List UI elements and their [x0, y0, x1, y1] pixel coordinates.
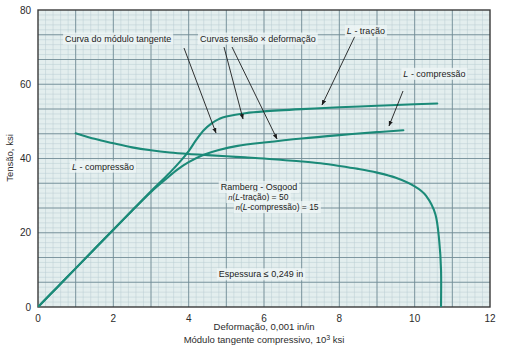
annotation-l-tracao-note: L - tração: [347, 26, 385, 36]
annotation-l-compressao-left-note: L - compressão: [72, 162, 134, 172]
y-axis-title: Tensão, ksi: [4, 134, 15, 182]
chart-svg: 024681012 020406080 Deformação, 0,001 in…: [0, 0, 510, 358]
tangent-modulus-chart-figure: 024681012 020406080 Deformação, 0,001 in…: [0, 0, 510, 358]
x-tick-label: 10: [409, 313, 421, 324]
annotation-stress-strain-note: Curvas tensão × deformação: [200, 34, 316, 44]
x-tick-label: 4: [186, 313, 192, 324]
x-tick-label: 8: [337, 313, 343, 324]
annotation-l-compressao-right-note: L - compressão: [403, 69, 465, 79]
y-tick-label: 80: [20, 5, 32, 16]
y-tick-label: 40: [20, 153, 32, 164]
annotation-ramberg-n-compressao: n(L-compressão) = 15: [236, 202, 319, 212]
x-tick-label: 2: [111, 313, 117, 324]
annotation-ramberg-title: Ramberg - Osgood: [221, 182, 298, 192]
annotation-ramberg-n-tracao: n(L-tração) = 50: [228, 192, 288, 202]
y-tick-label: 20: [20, 227, 32, 238]
x-tick-label: 12: [484, 313, 496, 324]
y-tick-label: 60: [20, 79, 32, 90]
x-tick-label: 0: [35, 313, 41, 324]
x-axis-title: Deformação, 0,001 in/in: [214, 321, 315, 332]
annotation-thickness-note: Espessura ≤ 0,249 in: [219, 269, 303, 279]
x-axis-title-secondary: Módulo tangente compressivo, 103 ksi: [184, 334, 345, 345]
annotation-tangent-modulus-note: Curva do módulo tangente: [65, 34, 171, 44]
y-tick-label: 0: [25, 302, 31, 313]
